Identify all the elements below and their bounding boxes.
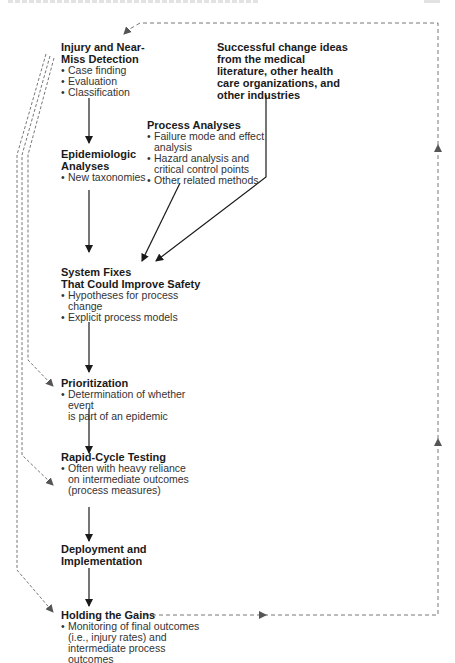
node-change-ideas: Successful change ideas from the medical… <box>217 41 357 101</box>
node-title: other industries <box>217 89 357 101</box>
bullet-list: Often with heavy reliance on intermediat… <box>61 463 191 496</box>
node-deployment: Deployment and Implementation <box>61 543 171 567</box>
bullet-item: Failure mode and effect analysis <box>147 131 287 153</box>
bullet-item: Often with heavy reliance on intermediat… <box>61 463 191 496</box>
arrow-process-to-systemfixes <box>142 183 180 261</box>
node-rapid-cycle: Rapid-Cycle Testing Often with heavy rel… <box>61 451 191 496</box>
node-title: Epidemiologic <box>61 148 151 160</box>
bullet-text: intermediate process outcomes <box>68 642 165 663</box>
node-prioritization: Prioritization Determination of whether … <box>61 377 211 422</box>
dashed-detection-to-rapidcycle <box>22 56 53 485</box>
bullet-text: Determination of whether event <box>68 388 185 411</box>
node-epidemiologic: Epidemiologic Analyses New taxonomies <box>61 148 151 183</box>
node-title: Deployment and <box>61 543 171 555</box>
bullet-list: New taxonomies <box>61 172 151 183</box>
bullet-item: New taxonomies <box>61 172 151 183</box>
bullet-item: Hazard analysis and critical control poi… <box>147 153 287 175</box>
bullet-item: Hypotheses for process change <box>61 290 221 312</box>
bullet-text: is part of an epidemic <box>68 410 168 422</box>
bullet-item: Other related methods <box>147 175 287 186</box>
bullet-list: Hypotheses for process change Explicit p… <box>61 290 221 323</box>
bullet-list: Determination of whether event is part o… <box>61 389 211 422</box>
node-system-fixes: System Fixes That Could Improve Safety H… <box>61 266 221 323</box>
node-title: from the medical <box>217 53 357 65</box>
bullet-text: (process measures) <box>68 484 161 496</box>
bullet-text: Explicit process models <box>68 311 178 323</box>
bullet-item: Determination of whether event is part o… <box>61 389 211 422</box>
bullet-item: Monitoring of final outcomes (i.e., inju… <box>61 621 211 663</box>
dashed-detection-to-prioritization <box>28 58 54 386</box>
bullet-list: Failure mode and effect analysis Hazard … <box>147 131 287 186</box>
node-holding-gains: Holding the Gains Monitoring of final ou… <box>61 609 211 663</box>
node-title: Implementation <box>61 555 171 567</box>
flowchart-canvas: Injury and Near- Miss Detection Case fin… <box>0 0 455 663</box>
node-title: System Fixes <box>61 266 221 278</box>
bullet-list: Case finding Evaluation Classification <box>61 65 181 98</box>
bullet-item: Explicit process models <box>61 312 221 323</box>
bullet-text: Other related methods <box>154 174 258 186</box>
feedback-arrow-mid-bottom <box>259 611 267 619</box>
feedback-arrow-right-lower <box>434 438 442 446</box>
node-title: literature, other health <box>217 65 357 77</box>
node-title: Successful change ideas <box>217 41 357 53</box>
bullet-list: Monitoring of final outcomes (i.e., inju… <box>61 621 211 663</box>
node-injury-detection: Injury and Near- Miss Detection Case fin… <box>61 41 181 98</box>
bullet-item: Classification <box>61 87 181 98</box>
node-process-analyses: Process Analyses Failure mode and effect… <box>147 119 287 186</box>
node-title: care organizations, and <box>217 77 357 89</box>
feedback-arrow-right-upper <box>434 144 442 152</box>
node-title: Injury and Near- <box>61 41 181 53</box>
